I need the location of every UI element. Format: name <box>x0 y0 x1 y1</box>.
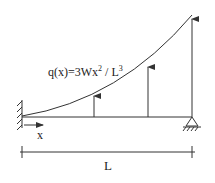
length-dimension <box>20 146 195 158</box>
fixed-wall-support <box>17 100 22 130</box>
load-formula: q(x)=3Wx2 / L3 <box>48 64 123 79</box>
length-label: L <box>104 158 112 173</box>
beam-diagram: x q(x)=3Wx2 / L3 L <box>0 0 215 183</box>
pin-support <box>183 117 201 131</box>
x-axis-label: x <box>37 128 43 142</box>
